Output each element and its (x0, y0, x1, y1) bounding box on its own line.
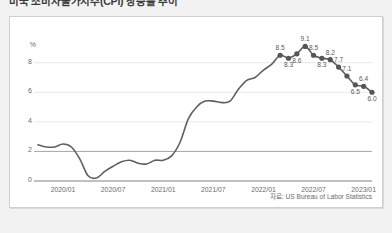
y-axis-tick-label: 8 (18, 58, 32, 65)
y-axis-tick-label: 0 (18, 176, 32, 183)
y-axis-tick-label: 2 (18, 146, 32, 153)
x-axis-tick-label: 2020/01 (40, 186, 86, 193)
x-axis-tick-label: 2020/07 (90, 186, 136, 193)
source-note: 자료: US Bureau of Labor Statistics (270, 191, 372, 201)
x-axis-tick-label: 2021/07 (190, 186, 236, 193)
y-axis-tick-label: 6 (18, 87, 32, 94)
data-value-label: 7.1 (338, 65, 356, 72)
y-axis-unit-label: % (22, 41, 36, 48)
x-axis-tick-label: 2021/01 (140, 186, 186, 193)
data-value-label: 8.6 (288, 57, 306, 64)
data-value-label: 8.5 (305, 44, 323, 51)
data-value-label: 8.5 (271, 44, 289, 51)
data-value-label: 9.1 (296, 35, 314, 42)
data-value-label: 8.2 (321, 49, 339, 56)
chart-panel: % 02468 2020/012020/072021/012021/072022… (9, 16, 383, 208)
y-axis-tick-label: 4 (18, 117, 32, 124)
page-title: 미국 소비자물가지수(CPI) 상승률 추이 (9, 0, 178, 8)
data-value-label: 6.5 (346, 88, 364, 95)
data-value-label: 6.0 (363, 95, 381, 102)
data-value-label: 8.3 (313, 61, 331, 68)
data-value-label: 7.7 (330, 56, 348, 63)
data-value-label: 6.4 (355, 75, 373, 82)
line-chart-plot (10, 17, 384, 209)
gridlines (34, 63, 372, 181)
